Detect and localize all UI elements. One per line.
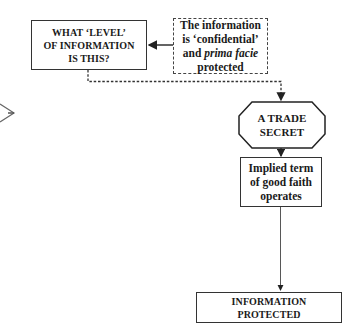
confidential-line: is ‘confidential’	[180, 32, 261, 46]
confidential-line: protected	[180, 60, 261, 74]
trade-secret-line: A TRADE	[257, 111, 306, 125]
trade-secret-line: SECRET	[257, 125, 306, 139]
confidential-line: and prima facie	[180, 46, 261, 60]
level-question-line: OF INFORMATION	[43, 39, 134, 52]
implied-term-line: operates	[249, 189, 314, 203]
level-question-box: WHAT ‘LEVEL’ OF INFORMATION IS THIS?	[31, 20, 147, 70]
information-protected-box: INFORMATION PROTECTED	[196, 292, 342, 323]
implied-term-line: Implied term	[249, 161, 314, 175]
level-question-line: WHAT ‘LEVEL’	[43, 26, 134, 39]
protected-line: INFORMATION	[232, 295, 307, 308]
level-question-line: IS THIS?	[43, 52, 134, 65]
dashed-connector-level-to-trade-secret	[88, 70, 281, 100]
confidential-box: The information is ‘confidential’ and pr…	[173, 18, 268, 74]
implied-term-line: of good faith	[249, 175, 314, 189]
confidential-and: and	[183, 47, 204, 59]
confidential-line: The information	[180, 18, 261, 32]
implied-term-box: Implied term of good faith operates	[240, 157, 322, 207]
trade-secret-label: A TRADE SECRET	[239, 102, 325, 148]
confidential-prima-facie: prima facie	[204, 47, 258, 59]
protected-line: PROTECTED	[232, 308, 307, 321]
